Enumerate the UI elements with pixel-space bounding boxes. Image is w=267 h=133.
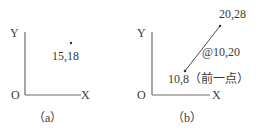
panel-b-relative-offset-label: @10,20 (202, 46, 240, 58)
panel-a-caption: （a） (33, 112, 62, 124)
panel-a-y-axis-label: Y (10, 27, 19, 39)
panel-b-end-point-label: 20,28 (219, 8, 246, 20)
panel-b-x-axis-label: X (212, 89, 221, 101)
panel-a-origin-label: O (11, 89, 20, 101)
panel-a-point-marker (70, 42, 72, 44)
panel-b-end-point-marker (219, 25, 222, 28)
panel-b-start-point-label: 10,8（前一点） (168, 73, 249, 85)
panel-b-origin-label: O (137, 89, 146, 101)
panel-b-caption: （b） (172, 112, 202, 124)
panel-a-point-label: 15,18 (52, 50, 79, 62)
panel-a-x-axis-label: X (81, 89, 90, 101)
panel-b-y-axis-label: Y (137, 27, 146, 39)
